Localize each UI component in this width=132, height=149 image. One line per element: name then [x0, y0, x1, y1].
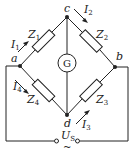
wire-a-z4: [20, 66, 35, 82]
wire-z2-b: [100, 50, 115, 67]
arrowhead-i1: [23, 41, 29, 46]
label-z4: Z4: [26, 93, 40, 107]
wire-z4-d: [52, 99, 67, 115]
node-label-a: a: [11, 52, 18, 65]
label-z1: Z1: [27, 28, 40, 42]
wire-a-z1: [20, 50, 35, 66]
arrowhead-i3: [84, 110, 90, 115]
label-i3: I3: [81, 118, 91, 132]
node-label-b: b: [116, 50, 123, 63]
ac-symbol: ~: [63, 141, 71, 149]
node-label-c: c: [64, 2, 70, 15]
wire-d-z3: [67, 99, 82, 115]
label-i2: I2: [83, 3, 93, 17]
node-b-dot: [113, 65, 117, 69]
arrowhead-i2: [82, 18, 88, 23]
galvanometer-label: G: [63, 58, 71, 69]
label-z2: Z2: [95, 28, 108, 42]
label-z3: Z3: [95, 93, 108, 107]
node-a-dot: [18, 64, 22, 68]
terminal-right: [76, 139, 80, 143]
node-c-dot: [65, 15, 69, 19]
label-i1: I1: [10, 38, 20, 52]
bridge-circuit-diagram: a c b d Z1 Z2 Z3 Z4 I1 I2 I3 I4 G US ~: [0, 0, 132, 149]
label-i4: I4: [12, 80, 22, 94]
wire-z3-b: [100, 67, 115, 82]
wire-c-z2: [67, 17, 82, 32]
terminal-left: [55, 139, 59, 143]
wire-z1-c: [52, 17, 67, 32]
